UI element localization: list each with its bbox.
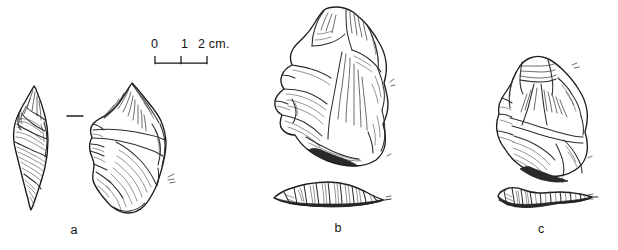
figure-c-face-view (486, 52, 602, 192)
figure-a-side-view (8, 84, 64, 212)
scale-bar: 0 1 2 cm. (148, 38, 240, 68)
figure-caption-c: c (531, 223, 551, 236)
figure-b-transverse-section (266, 176, 396, 212)
scale-bar-labels: 0 1 2 cm. (148, 38, 240, 53)
scale-tick-label-0: 0 (151, 38, 158, 51)
scale-tick-label-2: 2 cm. (198, 38, 230, 51)
figure-a-orientation-tick (66, 112, 86, 120)
figure-c-transverse-section (492, 182, 600, 214)
artifact-plate: 0 1 2 cm. (0, 0, 618, 250)
scale-tick-label-1: 1 (181, 38, 188, 51)
figure-caption-a: a (64, 224, 84, 237)
figure-a-face-view (86, 80, 182, 216)
figure-caption-b: b (328, 222, 348, 235)
scale-bar-rule (148, 55, 218, 67)
figure-b-face-view (268, 4, 416, 184)
